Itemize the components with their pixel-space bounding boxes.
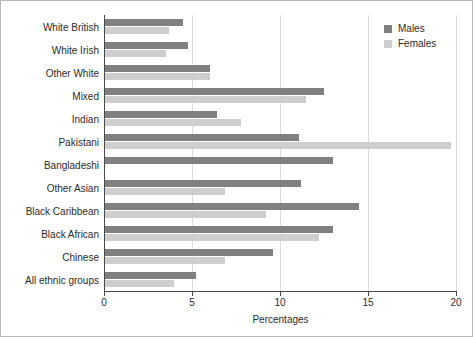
bar-group: Indian [104,107,456,130]
bar-males [104,226,333,233]
bar-females [104,234,319,241]
x-tick-mark-10 [280,292,281,296]
males-swatch [384,25,392,33]
bar-females [104,280,174,287]
x-tick-mark-15 [368,292,369,296]
x-tick-label-10: 10 [274,297,285,308]
bar-males [104,88,324,95]
bar-males [104,65,210,72]
chart-legend: Males Females [384,23,436,53]
chart-container: White BritishWhite IrishOther WhiteMixed… [0,0,473,337]
legend-label-females: Females [398,38,436,49]
females-swatch [384,40,392,48]
bar-females [104,27,169,34]
bar-males [104,272,196,279]
bar-females [104,50,166,57]
category-label: Chinese [62,252,99,263]
bar-group: Bangladeshi [104,153,456,176]
bar-males [104,249,273,256]
category-label: Pakistani [58,137,99,148]
x-tick-label-0: 0 [101,297,107,308]
category-label: Indian [72,114,99,125]
plot-area: White BritishWhite IrishOther WhiteMixed… [104,15,456,291]
category-label: Other White [46,68,99,79]
category-label: Bangladeshi [44,160,99,171]
bar-group: All ethnic groups [104,268,456,291]
bar-males [104,19,183,26]
x-tick-label-15: 15 [362,297,373,308]
y-axis-line [104,15,105,292]
x-tick-label-5: 5 [189,297,195,308]
bar-males [104,180,301,187]
category-label: Black Caribbean [26,206,99,217]
bar-group: Chinese [104,245,456,268]
bar-males [104,134,299,141]
bar-males [104,42,188,49]
bar-group: Black Caribbean [104,199,456,222]
legend-label-males: Males [398,23,425,34]
bar-group: Other Asian [104,176,456,199]
bar-group: Pakistani [104,130,456,153]
bar-females [104,142,451,149]
legend-item-females[interactable]: Females [384,38,436,49]
x-tick-mark-0 [104,292,105,296]
legend-item-males[interactable]: Males [384,23,436,34]
category-label: All ethnic groups [25,275,99,286]
bar-females [104,211,266,218]
category-label: Black African [41,229,99,240]
bar-females [104,96,306,103]
bar-females [104,257,225,264]
bar-males [104,111,217,118]
category-label: Mixed [72,91,99,102]
x-axis-title: Percentages [104,314,457,325]
category-label: Other Asian [47,183,99,194]
bar-females [104,119,241,126]
category-label: White Irish [52,45,99,56]
bar-females [104,73,210,80]
bar-females [104,188,225,195]
bar-group: Mixed [104,84,456,107]
x-tick-mark-20 [456,292,457,296]
x-tick-label-20: 20 [450,297,461,308]
x-tick-mark-5 [192,292,193,296]
category-label: White British [43,22,99,33]
bar-group: Black African [104,222,456,245]
bar-group: Other White [104,61,456,84]
bar-males [104,203,359,210]
gridline-20 [456,15,457,291]
bar-males [104,157,333,164]
